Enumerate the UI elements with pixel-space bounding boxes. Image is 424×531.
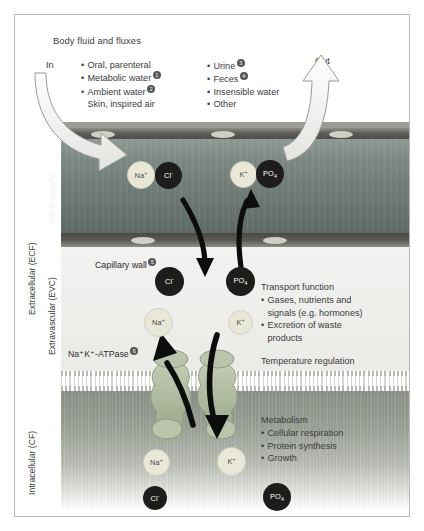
ion-cl-intracellular: Cl- [143, 486, 167, 510]
metabolism-item-2: Growth [261, 452, 343, 464]
atpase-label: Na⁺K⁺-ATPase6 [68, 347, 138, 359]
endothelial-nucleus [263, 237, 287, 244]
output-item-2: Insensible water [207, 86, 279, 98]
atpase-marker: 6 [130, 347, 138, 355]
endothelial-nucleus [329, 131, 353, 138]
intake-marker-2: 2 [147, 85, 155, 93]
ion-po4-intracellular: PO4 [263, 483, 291, 511]
axis-intravascular: Intravascular [47, 173, 57, 222]
endothelial-nucleus [211, 131, 235, 138]
output-marker-1: 4 [240, 72, 248, 80]
transport-footer: Temperature regulation [261, 355, 363, 367]
in-label: In [46, 60, 54, 70]
intake-item-3: Skin, inspired air [81, 98, 161, 110]
output-item-3: Other [207, 98, 279, 110]
endothelial-nucleus [131, 237, 155, 244]
metabolism-title: Metabolism [261, 414, 343, 426]
figure-title: Body fluid and fluxes [53, 36, 141, 46]
transport-item-2: Excretion of waste [261, 319, 363, 331]
endothelium-bottom [61, 233, 410, 247]
intake-list: Oral, parenteral Metabolic water1 Ambien… [81, 59, 161, 111]
intake-item-1: Metabolic water1 [81, 71, 161, 84]
ion-na-vascular: Na+ [127, 161, 155, 189]
output-marker-0: 3 [237, 59, 245, 67]
output-item-1: Feces4 [207, 72, 279, 85]
ion-po4-interstitial: PO4 [226, 267, 255, 296]
out-label: Out [315, 56, 330, 66]
metabolism-block: Metabolism Cellular respiration Protein … [261, 414, 343, 465]
ion-k-vascular: K+ [230, 161, 257, 188]
transport-item-0: Gases, nutrients and [261, 294, 363, 306]
capillary-wall-label: Capillary wall5 [95, 258, 156, 270]
ion-na-intracellular: Na+ [143, 449, 170, 476]
intake-marker-1: 1 [153, 71, 161, 79]
transport-function-block: Transport function Gases, nutrients and … [261, 281, 363, 367]
ion-cl-vascular: Cl- [155, 162, 182, 189]
transport-item-1: signals (e.g. hormones) [261, 307, 363, 319]
transport-item-3: products [261, 332, 363, 344]
metabolism-item-1: Protein synthesis [261, 440, 343, 452]
ion-k-interstitial: K+ [228, 310, 253, 335]
ion-cl-interstitial: Cl- [155, 267, 184, 296]
ion-k-intracellular: K+ [217, 447, 246, 476]
output-list: Urine3 Feces4 Insensible water Other [207, 59, 279, 111]
metabolism-item-0: Cellular respiration [261, 427, 343, 439]
capillary-wall-marker: 5 [148, 258, 156, 266]
endothelial-nucleus [91, 131, 115, 138]
intake-item-0: Oral, parenteral [81, 59, 161, 71]
output-item-0: Urine3 [207, 59, 279, 72]
cell-membrane-bilayer [61, 371, 410, 391]
intake-item-2: Ambient water2 [81, 85, 161, 98]
ion-na-interstitial: Na+ [144, 308, 173, 337]
axis-intracellular: Intracellular (CF) [27, 431, 37, 495]
ion-po4-vascular: PO4 [256, 160, 284, 188]
phospholipid-tails [61, 376, 410, 386]
axis-extracellular: Extracellular (ECF) [27, 242, 37, 315]
axis-extravascular: Extravascular (EVC) [47, 277, 57, 355]
intravascular-lumen [61, 139, 410, 234]
lumen-texture [61, 139, 410, 234]
transport-title: Transport function [261, 281, 363, 293]
figure-panel: Body fluid and fluxes In Oral, parentera… [14, 14, 410, 517]
